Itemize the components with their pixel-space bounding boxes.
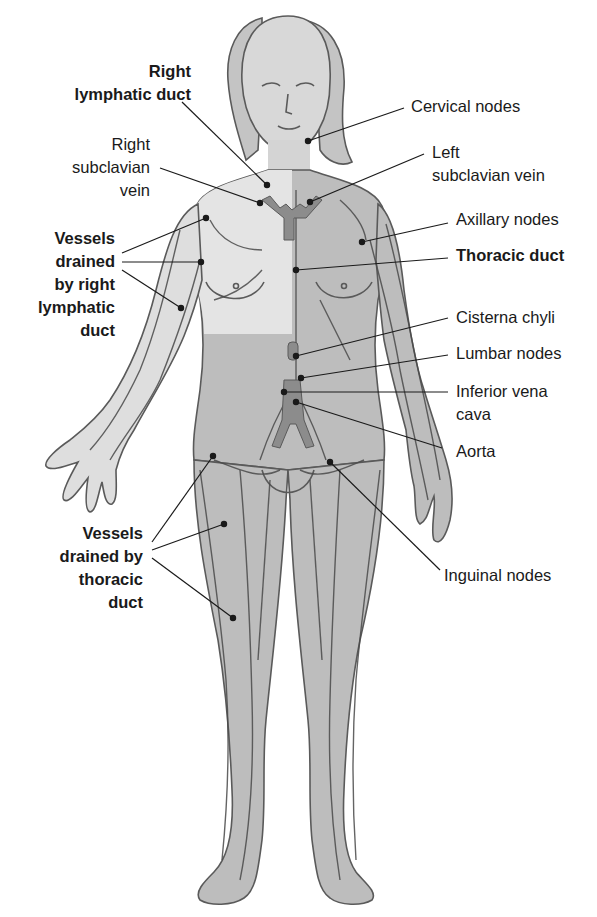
label-vessels-drained-by-right-lymphatic-duct: Vessels drained by right lymphatic duct xyxy=(38,227,115,342)
label-cisterna-chyli: Cisterna chyli xyxy=(456,306,555,329)
label-right-lymphatic-duct: Right lymphatic duct xyxy=(75,60,191,106)
left-leg xyxy=(288,460,384,904)
label-aorta: Aorta xyxy=(456,440,495,463)
label-inferior-vena-cava: Inferior vena cava xyxy=(456,380,548,426)
left-arm xyxy=(376,204,452,542)
label-inguinal-nodes: Inguinal nodes xyxy=(444,564,551,587)
label-left-subclavian-vein: Left subclavian vein xyxy=(432,141,545,187)
label-lumbar-nodes: Lumbar nodes xyxy=(456,342,562,365)
label-right-subclavian-vein: Right subclavian vein xyxy=(72,133,150,202)
label-vessels-drained-by-thoracic-duct: Vessels drained by thoracic duct xyxy=(60,522,143,614)
label-cervical-nodes: Cervical nodes xyxy=(411,95,520,118)
label-thoracic-duct: Thoracic duct xyxy=(456,244,564,267)
label-axillary-nodes: Axillary nodes xyxy=(456,208,559,231)
